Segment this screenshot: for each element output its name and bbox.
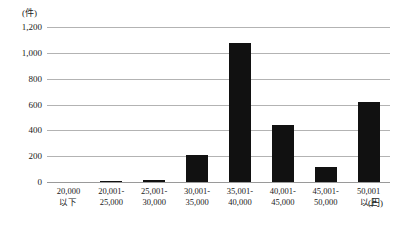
bar-slot bbox=[133, 27, 176, 182]
x-axis-tick-label-line1: 40,001- bbox=[261, 186, 304, 197]
x-axis-tick-label-line2: 以下 bbox=[47, 197, 90, 208]
bar bbox=[272, 125, 294, 182]
x-axis-tick-label-line1: 35,001- bbox=[219, 186, 262, 197]
x-axis-tick-labels: 20,000以下20,001-25,00025,001-30,00030,001… bbox=[47, 186, 390, 220]
bar-slot bbox=[90, 27, 133, 182]
bar-slot bbox=[347, 27, 390, 182]
axis-baseline bbox=[47, 182, 390, 183]
bar bbox=[143, 180, 165, 182]
x-axis-tick-label: 25,001-30,000 bbox=[133, 186, 176, 208]
bar bbox=[358, 102, 380, 182]
x-axis-tick-label-line2: 50,000 bbox=[304, 197, 347, 208]
x-axis-tick-label-line1: 30,001- bbox=[176, 186, 219, 197]
bar bbox=[315, 167, 337, 182]
x-axis-tick-label-line2: 40,000 bbox=[219, 197, 262, 208]
y-axis-tick-label: 400 bbox=[29, 126, 43, 135]
x-axis-tick-label: 20,000以下 bbox=[47, 186, 90, 208]
x-axis-tick-label-line1: 25,001- bbox=[133, 186, 176, 197]
x-axis-tick-label-line2: 35,000 bbox=[176, 197, 219, 208]
bar-series bbox=[47, 27, 390, 182]
x-axis-tick-label-line1: 20,001- bbox=[90, 186, 133, 197]
x-axis-tick-label: 35,001-40,000 bbox=[219, 186, 262, 208]
x-axis-unit-label: (円) bbox=[368, 198, 383, 209]
x-axis-tick-label: 30,001-35,000 bbox=[176, 186, 219, 208]
x-axis-tick-label: 45,001-50,000 bbox=[304, 186, 347, 208]
bar-slot bbox=[304, 27, 347, 182]
y-axis-tick-label: 200 bbox=[29, 152, 43, 161]
bar bbox=[186, 155, 208, 182]
x-axis-tick-label: 40,001-45,000 bbox=[261, 186, 304, 208]
x-axis-tick-label-line1: 50,001 bbox=[347, 186, 390, 197]
y-axis-tick-labels: 02004006008001,0001,200 bbox=[0, 27, 47, 182]
x-axis-tick-label-line2: 25,000 bbox=[90, 197, 133, 208]
bar-slot bbox=[219, 27, 262, 182]
x-axis-tick-label-line1: 45,001- bbox=[304, 186, 347, 197]
y-axis-tick-label: 600 bbox=[29, 100, 43, 109]
bar-slot bbox=[176, 27, 219, 182]
bar bbox=[100, 181, 122, 182]
x-axis-tick-label: 20,001-25,000 bbox=[90, 186, 133, 208]
bar-slot bbox=[47, 27, 90, 182]
bar bbox=[229, 43, 251, 182]
y-axis-tick-label: 800 bbox=[29, 74, 43, 83]
y-axis-tick-label: 0 bbox=[38, 178, 43, 187]
bar-slot bbox=[261, 27, 304, 182]
x-axis-tick-label-line1: 20,000 bbox=[47, 186, 90, 197]
y-axis-tick-label: 1,000 bbox=[22, 48, 42, 57]
bar-chart-figure: (件) 02004006008001,0001,200 20,000以下20,0… bbox=[0, 0, 398, 228]
y-axis-unit-label: (件) bbox=[22, 8, 37, 19]
plot-area bbox=[47, 27, 390, 182]
y-axis-tick-label: 1,200 bbox=[22, 23, 42, 32]
x-axis-tick-label-line2: 45,000 bbox=[261, 197, 304, 208]
x-axis-tick-label-line2: 30,000 bbox=[133, 197, 176, 208]
